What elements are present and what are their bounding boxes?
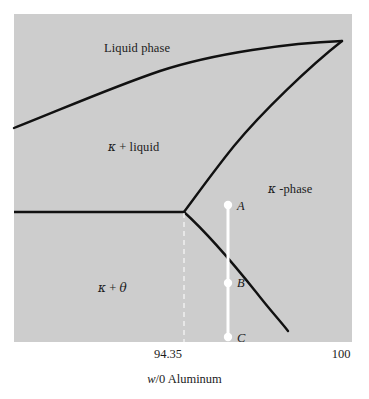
point-label-a: A: [237, 199, 245, 214]
point-label-c: C: [237, 331, 245, 346]
x-axis-title-prefix: w: [147, 372, 155, 386]
region-label-kappa-phase: κ -phase: [268, 182, 312, 197]
x-axis-title: w/0 Aluminum: [0, 372, 369, 387]
x-axis-title-rest: /0 Aluminum: [156, 372, 222, 386]
kappa-glyph: κ: [108, 140, 116, 154]
theta-glyph: θ: [120, 281, 127, 295]
kappa-glyph: κ: [98, 281, 106, 295]
region-label-liquid-text: Liquid phase: [104, 41, 170, 55]
region-label-kappa-plus-theta: κ + θ: [98, 281, 127, 296]
region-label-kappa-plus-liquid: κ + liquid: [108, 140, 159, 155]
region-label-kappa-phase-text: -phase: [276, 182, 312, 196]
x-tick-label-94-35: 94.35: [154, 347, 182, 362]
region-label-kappa-liquid-text: + liquid: [116, 140, 159, 154]
point-label-b: B: [237, 276, 245, 291]
region-label-liquid-phase: Liquid phase: [104, 41, 170, 56]
phase-diagram-figure: Liquid phase κ + liquid κ + θ κ -phase A…: [0, 0, 369, 399]
plot-panel: [14, 14, 352, 342]
plus-sign-text: +: [106, 281, 120, 295]
x-tick-label-100: 100: [332, 347, 351, 362]
kappa-glyph: κ: [268, 182, 276, 196]
